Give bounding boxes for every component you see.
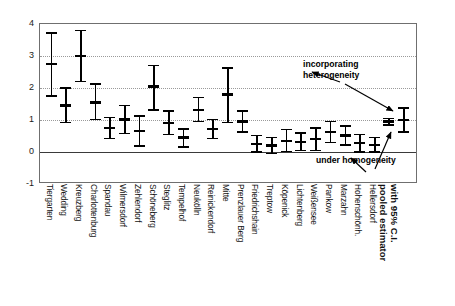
- x-tick-label: Schöneberg: [148, 184, 156, 228]
- point-estimate: [90, 101, 101, 103]
- x-tick-label: Mitte: [222, 184, 230, 201]
- y-tick-label: 4: [4, 19, 34, 28]
- ci-cap-lower: [119, 133, 130, 135]
- ci-cap-upper: [104, 117, 115, 119]
- point-estimate: [383, 120, 394, 122]
- ci-cap-lower: [178, 146, 189, 148]
- ci-cap-lower: [75, 81, 86, 83]
- ci-cap-lower: [281, 151, 292, 153]
- annotation-homogeneity: under homogeneity: [316, 155, 396, 166]
- annotation-heterogeneity: incorporating heterogeneity: [303, 59, 359, 80]
- point-estimate: [148, 85, 159, 87]
- y-tick-label: 3: [4, 51, 34, 60]
- ci-cap-upper: [310, 127, 321, 129]
- ci-cap-upper: [75, 30, 86, 32]
- ci-cap-lower: [383, 124, 394, 126]
- ci-cap-lower: [60, 122, 71, 124]
- x-tick-label: Treptow: [266, 184, 274, 213]
- ci-cap-lower: [90, 119, 101, 121]
- ci-cap-lower: [104, 138, 115, 140]
- point-estimate: [134, 130, 145, 132]
- chart-figure: 43210-1 TiergartenWeddingKreuzbergCharlo…: [0, 0, 455, 306]
- x-tick-label: Steglitz: [163, 184, 171, 210]
- y-tick-label: -1: [4, 179, 34, 188]
- point-estimate: [46, 63, 57, 65]
- x-tick-label: Lichtenberg: [295, 184, 303, 226]
- ci-cap-lower: [325, 142, 336, 144]
- x-tick-label: Tiergarten: [45, 184, 53, 220]
- point-estimate: [104, 127, 115, 129]
- ci-cap-lower: [193, 121, 204, 123]
- ci-cap-lower: [354, 151, 365, 153]
- y-axis: 43210-1: [0, 23, 34, 183]
- pooled-label-line2: with 95% C.I.: [389, 184, 399, 243]
- ci-cap-lower: [163, 134, 174, 136]
- ci-cap-upper: [354, 134, 365, 136]
- ci-cap-upper: [266, 137, 277, 139]
- x-tick-label: Neukölln: [192, 184, 200, 215]
- point-estimate: [251, 143, 262, 145]
- ci-cap-lower: [148, 109, 159, 111]
- ci-cap-lower: [222, 122, 233, 124]
- ci-cap-upper: [207, 119, 218, 121]
- ci-cap-upper: [383, 118, 394, 120]
- x-tick-label: Prenzlauer Berg: [236, 184, 244, 242]
- ci-cap-upper: [90, 83, 101, 85]
- x-tick-label: Hohenschönh.: [354, 184, 362, 236]
- x-tick-label: Reinickendorf: [207, 184, 215, 233]
- x-tick-label: Hellersdorf: [369, 184, 377, 223]
- ci-cap-lower: [207, 138, 218, 140]
- ci-cap-upper: [148, 65, 159, 67]
- ci-cap-lower: [134, 145, 145, 147]
- point-estimate: [193, 109, 204, 111]
- x-tick-label: Charlottenburg: [89, 184, 97, 237]
- point-estimate: [325, 131, 336, 133]
- ci-cap-lower: [340, 144, 351, 146]
- point-estimate: [398, 119, 409, 121]
- x-tick-label: Wilmersdorf: [119, 184, 127, 227]
- point-estimate: [207, 128, 218, 130]
- ci-cap-upper: [222, 67, 233, 69]
- ci-cap-lower: [251, 151, 262, 153]
- point-estimate: [340, 134, 351, 136]
- ci-cap-upper: [325, 121, 336, 123]
- ci-cap-upper: [163, 110, 174, 112]
- ci-cap-upper: [251, 135, 262, 137]
- x-tick-label: Marzahn: [339, 184, 347, 216]
- point-estimate: [75, 55, 86, 57]
- ci-cap-upper: [178, 128, 189, 130]
- x-tick-label: Weißensee: [310, 184, 318, 225]
- ci-cap-upper: [369, 137, 380, 139]
- point-estimate: [237, 120, 248, 122]
- ci-cap-upper: [398, 107, 409, 109]
- ci-stem: [153, 66, 155, 110]
- point-estimate: [354, 142, 365, 144]
- point-estimate: [163, 122, 174, 124]
- point-estimate: [60, 104, 71, 106]
- x-tick-label: Zehlendorf: [133, 184, 141, 223]
- ci-cap-lower: [266, 153, 277, 155]
- ci-cap-lower: [46, 95, 57, 97]
- x-tick-label: Kreuzberg: [75, 184, 83, 221]
- y-tick-label: 2: [4, 83, 34, 92]
- ci-cap-lower: [398, 131, 409, 133]
- ci-cap-lower: [237, 131, 248, 133]
- point-estimate: [178, 136, 189, 138]
- ci-cap-upper: [193, 97, 204, 99]
- point-estimate: [310, 138, 321, 140]
- point-estimate: [266, 144, 277, 146]
- pooled-label-line1: pooled estimator: [378, 184, 388, 261]
- x-tick-label: Köpenick: [280, 184, 288, 217]
- y-tick-label: 1: [4, 115, 34, 124]
- point-estimate: [119, 118, 130, 120]
- ci-cap-upper: [295, 132, 306, 134]
- ci-cap-upper: [237, 110, 248, 112]
- ci-cap-lower: [295, 150, 306, 152]
- x-tick-label: Tempelhof: [177, 184, 185, 221]
- ci-cap-upper: [340, 125, 351, 127]
- point-estimate: [281, 140, 292, 142]
- gridline: [40, 56, 416, 57]
- point-estimate: [369, 144, 380, 146]
- ci-cap-upper: [46, 32, 57, 34]
- x-tick-label: Spandau: [104, 184, 112, 216]
